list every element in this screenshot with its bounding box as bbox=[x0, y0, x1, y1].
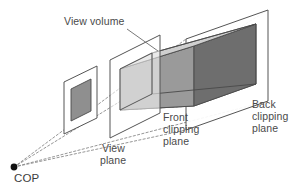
label-front-clipping-line2: clipping bbox=[163, 123, 199, 135]
view-volume-diagram: View volume View plane Front clipping pl… bbox=[0, 0, 306, 186]
label-view-volume: View volume bbox=[64, 15, 124, 27]
label-front-clipping-line3: plane bbox=[163, 135, 189, 147]
label-view-plane-line2: plane bbox=[100, 154, 126, 166]
label-back-clipping-line3: plane bbox=[252, 122, 278, 134]
cop-dot bbox=[11, 164, 18, 171]
label-cop: COP bbox=[14, 172, 39, 184]
label-back-clipping-line1: Back bbox=[252, 98, 276, 110]
label-view-plane-line1: View bbox=[102, 142, 125, 154]
label-back-clipping-line2: clipping bbox=[252, 110, 288, 122]
label-front-clipping-line1: Front bbox=[163, 111, 188, 123]
